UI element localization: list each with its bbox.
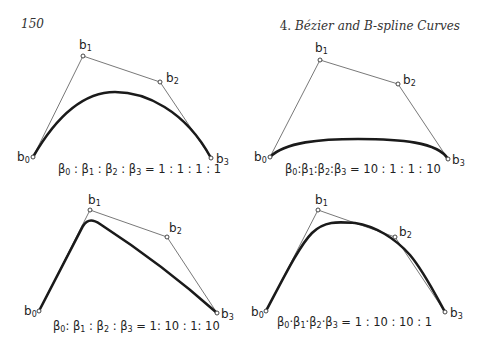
control-point-b1 xyxy=(88,208,92,212)
control-point-b3 xyxy=(209,156,213,160)
panel-1: b0 b1 b2 b3 β0 : β1 : β2 : β3 = 1 : 1 : … xyxy=(17,38,229,177)
control-point-b2 xyxy=(158,80,162,84)
control-point-b1 xyxy=(316,208,320,212)
panel-4: b0 b1 b2 b3 β0·β1·β2·β3 = 1 : 10 : 10 : … xyxy=(251,193,463,330)
label-b1: b1 xyxy=(88,193,101,208)
label-b0: b0 xyxy=(254,150,267,165)
control-point-b3 xyxy=(446,157,450,161)
weight-caption: β0:β1:β2:β3 = 10 : 1 : 1 : 10 xyxy=(285,162,441,177)
label-b2: b2 xyxy=(399,225,412,240)
panel-3: b0 b1 b2 b3 β0: β1 : β2 : β3 = 1: 10 : 1… xyxy=(24,193,234,334)
label-b2: b2 xyxy=(166,71,179,86)
bezier-curve xyxy=(39,221,217,314)
weight-caption: β0: β1 : β2 : β3 = 1: 10 : 1: 10 xyxy=(53,319,220,334)
label-b0: b0 xyxy=(24,304,37,319)
control-point-b2 xyxy=(393,235,397,239)
label-b0: b0 xyxy=(251,305,264,320)
label-b1: b1 xyxy=(315,193,328,208)
control-point-b0 xyxy=(37,309,41,313)
label-b3: b3 xyxy=(452,153,465,168)
label-b3: b3 xyxy=(450,306,463,321)
control-point-b0 xyxy=(31,155,35,159)
panel-2: b0 b1 b2 b3 β0:β1:β2:β3 = 10 : 1 : 1 : 1… xyxy=(254,41,465,177)
label-b3: b3 xyxy=(221,307,234,322)
control-point-b1 xyxy=(318,58,322,62)
label-b0: b0 xyxy=(17,150,30,165)
figure-rational-bezier-weights: b0 b1 b2 b3 β0 : β1 : β2 : β3 = 1 : 1 : … xyxy=(0,0,482,352)
label-b1: b1 xyxy=(315,41,328,56)
weight-caption: β0·β1·β2·β3 = 1 : 10 : 10 : 1 xyxy=(277,315,432,330)
control-point-b2 xyxy=(396,82,400,86)
bezier-curve xyxy=(266,222,445,312)
control-point-b0 xyxy=(264,309,268,313)
control-point-b3 xyxy=(215,311,219,315)
label-b2: b2 xyxy=(169,221,182,236)
control-point-b0 xyxy=(268,155,272,159)
label-b2: b2 xyxy=(403,73,416,88)
control-polygon xyxy=(33,56,211,158)
label-b1: b1 xyxy=(79,38,92,53)
bezier-curve xyxy=(33,92,211,158)
control-point-b1 xyxy=(81,54,85,58)
control-point-b3 xyxy=(443,310,447,314)
weight-caption: β0 : β1 : β2 : β3 = 1 : 1 : 1 : 1 xyxy=(58,162,221,177)
control-point-b2 xyxy=(165,235,169,239)
bezier-curve xyxy=(270,139,448,159)
